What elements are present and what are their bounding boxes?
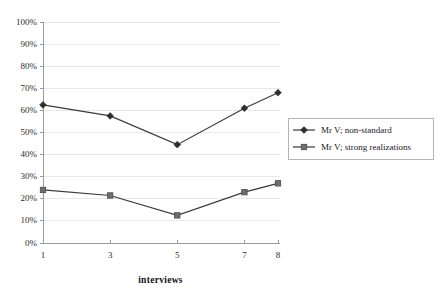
series-1 xyxy=(40,89,282,148)
data-point-marker xyxy=(275,89,282,96)
x-axis-tick-label: 8 xyxy=(276,250,281,260)
legend-label: Mr V; non-standard xyxy=(321,125,392,135)
y-axis-labels-group: 100%90%80%70%60%50%40%30%20%10%0% xyxy=(16,17,38,248)
y-axis-tick-label: 30% xyxy=(21,171,38,181)
y-axis-tick-label: 80% xyxy=(21,61,38,71)
series-2 xyxy=(40,181,280,218)
data-point-marker xyxy=(40,101,47,108)
y-axis-tick-label: 70% xyxy=(21,83,38,93)
series-line xyxy=(43,183,278,215)
y-axis-tick-label: 100% xyxy=(16,17,38,27)
y-axis-tick-label: 10% xyxy=(21,215,38,225)
data-point-marker xyxy=(40,187,45,192)
series-line xyxy=(43,93,278,145)
x-axis-tick-label: 1 xyxy=(41,250,46,260)
x-axis-title: interviews xyxy=(138,275,183,285)
x-axis-tick-label: 3 xyxy=(108,250,113,260)
y-axis-tick-label: 0% xyxy=(25,238,38,248)
y-axis-tick-label: 20% xyxy=(21,193,38,203)
data-point-marker xyxy=(107,113,114,120)
x-axis-tick-label: 7 xyxy=(242,250,247,260)
y-axis-tick-label: 40% xyxy=(21,149,38,159)
x-axis-tick-label: 5 xyxy=(175,250,180,260)
line-chart: 100%90%80%70%60%50%40%30%20%10%0% 13578 … xyxy=(0,0,438,297)
data-point-marker xyxy=(242,189,247,194)
y-axis-tick-label: 90% xyxy=(21,39,38,49)
y-axis-tick-label: 50% xyxy=(21,127,38,137)
data-point-marker xyxy=(301,144,306,149)
x-axis-labels-group: 13578 xyxy=(41,250,281,260)
legend-label: Mr V; strong realizations xyxy=(321,142,411,152)
chart-legend: Mr V; non-standardMr V; strong realizati… xyxy=(288,118,433,159)
data-point-marker xyxy=(175,213,180,218)
data-point-marker xyxy=(107,193,112,198)
data-point-marker xyxy=(174,141,181,148)
data-point-marker xyxy=(275,181,280,186)
chart-container: 100%90%80%70%60%50%40%30%20%10%0% 13578 … xyxy=(0,0,438,297)
y-axis-tick-label: 60% xyxy=(21,105,38,115)
